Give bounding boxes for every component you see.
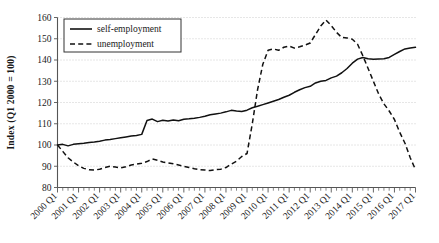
- chart-container: 8090100110120130140150160 2000 Q12001 Q1…: [0, 0, 439, 243]
- y-tick-label: 160: [37, 13, 52, 23]
- x-axis-ticks: 2000 Q12001 Q12002 Q12003 Q12004 Q12005 …: [29, 188, 418, 222]
- y-tick-label: 150: [37, 34, 52, 44]
- y-tick-label: 140: [37, 55, 52, 65]
- y-tick-label: 110: [38, 119, 52, 129]
- y-tick-label: 130: [37, 77, 52, 87]
- y-axis-title-text: Index (Q1 2000 = 100): [6, 55, 17, 149]
- y-tick-label: 120: [37, 98, 52, 108]
- chart-legend[interactable]: self-employmentunemployment: [64, 19, 181, 52]
- y-axis-title: Index (Q1 2000 = 100): [6, 55, 17, 149]
- y-tick-label: 100: [37, 140, 52, 150]
- y-axis-ticks: 8090100110120130140150160: [37, 13, 57, 193]
- line-chart: 8090100110120130140150160 2000 Q12001 Q1…: [0, 0, 439, 243]
- legend-label[interactable]: unemployment: [97, 39, 154, 49]
- y-tick-label: 90: [42, 162, 52, 172]
- legend-label[interactable]: self-employment: [97, 24, 162, 34]
- series-line-self-employment: [58, 47, 416, 146]
